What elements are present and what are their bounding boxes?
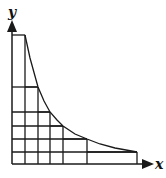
- y-axis-label: y: [7, 4, 17, 20]
- x-axis: [12, 159, 154, 169]
- grid: [12, 35, 137, 164]
- x-axis-label: x: [154, 156, 164, 172]
- y-axis-arrow-icon: [7, 20, 17, 32]
- decreasing-curve: [25, 35, 137, 152]
- x-axis-arrow-icon: [142, 159, 154, 169]
- diagram: y x: [0, 0, 166, 178]
- y-axis: [7, 20, 17, 164]
